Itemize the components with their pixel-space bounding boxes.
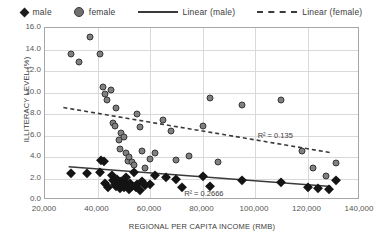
- x-tick-label: 120,000: [282, 205, 332, 213]
- chart-legend: male female Linear (male) Linear (female…: [0, 2, 383, 22]
- data-point-female: [131, 161, 138, 168]
- r-squared-label-female: R² = 0.135: [258, 131, 293, 140]
- data-point-female: [86, 33, 93, 40]
- data-point-female: [68, 50, 75, 57]
- y-tick-label: 2.0: [5, 174, 41, 182]
- y-tick-label: 10.0: [5, 88, 41, 96]
- y-tick-label: 6.0: [5, 131, 41, 139]
- data-point-female: [141, 164, 148, 171]
- x-tick-label: 20,000: [19, 205, 69, 213]
- data-point-female: [322, 173, 329, 180]
- r-squared-label-male: R² = 0.2666: [184, 189, 223, 198]
- data-point-female: [112, 104, 119, 111]
- data-point-female: [120, 133, 127, 140]
- solid-line-icon: [138, 11, 178, 13]
- y-tick-label: 0.0: [5, 195, 41, 203]
- data-point-female: [173, 157, 180, 164]
- data-point-female: [111, 122, 118, 129]
- x-tick-label: 80,000: [177, 205, 227, 213]
- x-axis-title: REGIONAL PER CAPITA INCOME (RMB): [44, 222, 360, 231]
- x-tick-label: 140,000: [334, 205, 383, 213]
- y-tick-label: 12.0: [5, 66, 41, 74]
- y-tick-label: 14.0: [5, 45, 41, 53]
- plot-area: R² = 0.135 R² = 0.2666: [44, 27, 359, 199]
- data-point-female: [215, 159, 222, 166]
- x-tick-label: 40,000: [72, 205, 122, 213]
- data-point-female: [103, 97, 110, 104]
- data-point-female: [278, 97, 285, 104]
- x-tick-label: 100,000: [229, 205, 279, 213]
- circle-marker-icon: [74, 7, 84, 17]
- data-point-female: [152, 149, 159, 156]
- data-point-female: [136, 123, 143, 130]
- x-tick-label: 60,000: [124, 205, 174, 213]
- y-tick-label: 4.0: [5, 152, 41, 160]
- data-point-female: [147, 156, 154, 163]
- legend-label-linear-female: Linear (female): [302, 7, 362, 17]
- data-point-female: [139, 147, 146, 154]
- data-point-female: [238, 102, 245, 109]
- legend-item-female: female: [74, 7, 116, 17]
- scatter-chart: male female Linear (male) Linear (female…: [0, 0, 383, 242]
- legend-label-linear-male: Linear (male): [183, 7, 236, 17]
- data-point-female: [199, 122, 206, 129]
- y-tick-label: 16.0: [5, 23, 41, 31]
- data-point-female: [207, 94, 214, 101]
- data-point-female: [133, 111, 140, 118]
- legend-item-linear-female: Linear (female): [257, 7, 362, 17]
- y-tick-label: 8.0: [5, 109, 41, 117]
- data-point-female: [333, 160, 340, 167]
- data-point-female: [107, 87, 114, 94]
- data-point-female: [76, 59, 83, 66]
- dashed-line-icon: [257, 11, 297, 13]
- data-point-female: [299, 147, 306, 154]
- data-point-female: [160, 117, 167, 124]
- data-point-female: [309, 164, 316, 171]
- legend-item-linear-male: Linear (male): [138, 7, 236, 17]
- data-point-female: [186, 152, 193, 159]
- data-point-female: [168, 128, 175, 135]
- legend-label-female: female: [89, 7, 116, 17]
- data-point-female: [97, 50, 104, 57]
